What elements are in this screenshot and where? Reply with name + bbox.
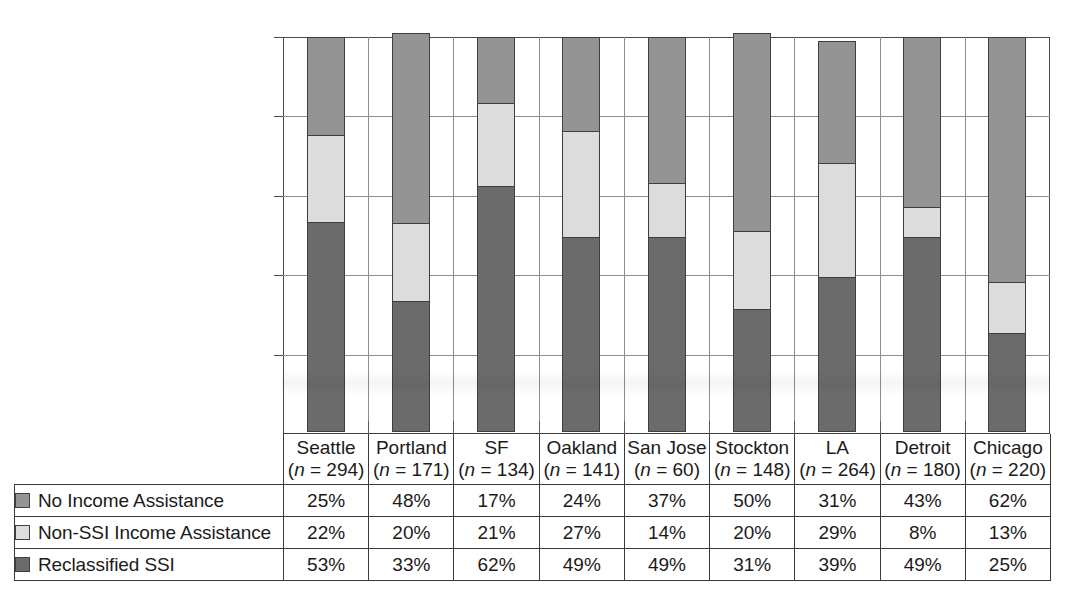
bar-segment-non-ssi-income-assistance bbox=[733, 231, 771, 310]
column-header-sample-size: (n = 294) bbox=[284, 459, 368, 481]
bar-segment-no-income-assistance bbox=[562, 37, 600, 132]
bar-stockton bbox=[733, 33, 771, 434]
column-header-seattle: Seattle(n = 294) bbox=[284, 434, 369, 485]
column-header-sample-size: (n = 134) bbox=[454, 459, 538, 481]
table-row: Reclassified SSI53%33%62%49%49%31%39%49%… bbox=[15, 549, 1051, 581]
bar-segment-non-ssi-income-assistance bbox=[562, 131, 600, 238]
table-cell: 39% bbox=[795, 549, 880, 581]
column-header-chicago: Chicago(n = 220) bbox=[965, 434, 1050, 485]
x-tick-7 bbox=[880, 421, 881, 434]
column-header-sample-size: (n = 60) bbox=[625, 459, 709, 481]
bar-segment-reclassified-ssi bbox=[477, 186, 515, 432]
bar-segment-no-income-assistance bbox=[648, 37, 686, 184]
y-tick-mark-60 bbox=[274, 196, 283, 197]
legend-item-reclassified-ssi: Reclassified SSI bbox=[15, 549, 284, 581]
legend-label: Non-SSI Income Assistance bbox=[38, 522, 271, 543]
column-header-sample-size: (n = 148) bbox=[710, 459, 794, 481]
table-cell: 14% bbox=[624, 517, 709, 549]
table-header-row: Seattle(n = 294)Portland(n = 171)SF(n = … bbox=[15, 434, 1051, 485]
column-header-san-jose: San Jose(n = 60) bbox=[624, 434, 709, 485]
y-tick-mark-80 bbox=[274, 116, 283, 117]
bar-seattle bbox=[307, 37, 345, 434]
legend-label: No Income Assistance bbox=[38, 490, 224, 511]
table-cell: 21% bbox=[454, 517, 539, 549]
x-tick-2 bbox=[453, 421, 454, 434]
legend-swatch-icon bbox=[15, 557, 30, 572]
x-tick-1 bbox=[368, 421, 369, 434]
stacked-bar-chart-figure: 0%20%40%60%80%100% Seattle(n = 294)Portl… bbox=[0, 0, 1078, 604]
column-header-city: Seattle bbox=[284, 437, 368, 459]
table-cell: 50% bbox=[710, 485, 795, 517]
bar-segment-non-ssi-income-assistance bbox=[818, 163, 856, 278]
bar-chicago bbox=[988, 37, 1026, 434]
bar-san-jose bbox=[648, 37, 686, 434]
header-blank bbox=[15, 434, 284, 485]
table-cell: 31% bbox=[710, 549, 795, 581]
table-cell: 49% bbox=[880, 549, 965, 581]
column-header-detroit: Detroit(n = 180) bbox=[880, 434, 965, 485]
column-header-city: Portland bbox=[369, 437, 453, 459]
bar-segment-non-ssi-income-assistance bbox=[988, 282, 1026, 334]
data-table: Seattle(n = 294)Portland(n = 171)SF(n = … bbox=[14, 434, 1051, 581]
legend-swatch-icon bbox=[15, 525, 30, 540]
bar-segment-reclassified-ssi bbox=[307, 222, 345, 432]
bar-segment-no-income-assistance bbox=[392, 33, 430, 224]
bar-segment-non-ssi-income-assistance bbox=[307, 135, 345, 222]
column-divider-8 bbox=[965, 37, 966, 434]
legend-swatch-icon bbox=[15, 493, 30, 508]
table-cell: 13% bbox=[965, 517, 1050, 549]
x-tick-6 bbox=[794, 421, 795, 434]
table-cell: 62% bbox=[965, 485, 1050, 517]
column-header-city: Detroit bbox=[881, 437, 965, 459]
column-divider-2 bbox=[453, 37, 454, 434]
table-cell: 27% bbox=[539, 517, 624, 549]
bar-segment-reclassified-ssi bbox=[648, 237, 686, 432]
column-divider-6 bbox=[794, 37, 795, 434]
column-header-sample-size: (n = 264) bbox=[795, 459, 879, 481]
y-tick-mark-20 bbox=[274, 355, 283, 356]
table-cell: 48% bbox=[369, 485, 454, 517]
table-cell: 25% bbox=[965, 549, 1050, 581]
bar-segment-reclassified-ssi bbox=[562, 237, 600, 432]
table-cell: 62% bbox=[454, 549, 539, 581]
bar-segment-non-ssi-income-assistance bbox=[392, 223, 430, 302]
column-header-sf: SF(n = 134) bbox=[454, 434, 539, 485]
column-header-city: SF bbox=[454, 437, 538, 459]
legend-item-non-ssi-income-assistance: Non-SSI Income Assistance bbox=[15, 517, 284, 549]
table-cell: 8% bbox=[880, 517, 965, 549]
column-header-la: LA(n = 264) bbox=[795, 434, 880, 485]
legend-item-no-income-assistance: No Income Assistance bbox=[15, 485, 284, 517]
x-tick-4 bbox=[624, 421, 625, 434]
column-header-stockton: Stockton(n = 148) bbox=[710, 434, 795, 485]
column-header-sample-size: (n = 141) bbox=[540, 459, 624, 481]
column-header-city: Stockton bbox=[710, 437, 794, 459]
column-divider-4 bbox=[624, 37, 625, 434]
bar-segment-non-ssi-income-assistance bbox=[903, 207, 941, 239]
bar-segment-reclassified-ssi bbox=[733, 309, 771, 432]
bar-sf bbox=[477, 37, 515, 434]
column-header-sample-size: (n = 220) bbox=[966, 459, 1050, 481]
bar-segment-reclassified-ssi bbox=[903, 237, 941, 432]
column-divider-7 bbox=[880, 37, 881, 434]
table-cell: 31% bbox=[795, 485, 880, 517]
bar-segment-no-income-assistance bbox=[818, 41, 856, 164]
bar-segment-non-ssi-income-assistance bbox=[648, 183, 686, 239]
plot-area bbox=[283, 37, 1050, 434]
bar-segment-no-income-assistance bbox=[988, 37, 1026, 283]
column-divider-5 bbox=[709, 37, 710, 434]
table-body: No Income Assistance25%48%17%24%37%50%31… bbox=[15, 485, 1051, 581]
table-row: Non-SSI Income Assistance22%20%21%27%14%… bbox=[15, 517, 1051, 549]
y-tick-mark-40 bbox=[274, 275, 283, 276]
bar-segment-no-income-assistance bbox=[903, 37, 941, 208]
column-header-oakland: Oakland(n = 141) bbox=[539, 434, 624, 485]
x-tick-5 bbox=[709, 421, 710, 434]
table-cell: 43% bbox=[880, 485, 965, 517]
table-cell: 24% bbox=[539, 485, 624, 517]
y-tick-mark-100 bbox=[274, 37, 283, 38]
bar-segment-non-ssi-income-assistance bbox=[477, 103, 515, 186]
table-cell: 53% bbox=[284, 549, 369, 581]
bar-segment-no-income-assistance bbox=[733, 33, 771, 232]
x-tick-8 bbox=[965, 421, 966, 434]
column-header-city: Oakland bbox=[540, 437, 624, 459]
table-cell: 49% bbox=[624, 549, 709, 581]
